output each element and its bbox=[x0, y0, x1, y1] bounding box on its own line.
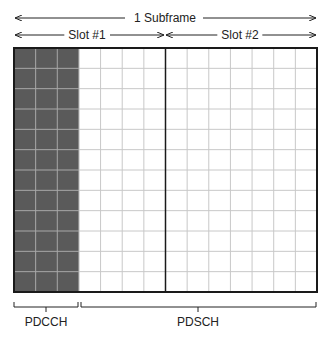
pdcch-bracket bbox=[14, 302, 78, 312]
slot2-label: Slot #2 bbox=[217, 28, 262, 42]
pdsch-label: PDSCH bbox=[173, 315, 223, 329]
pdcch-label: PDCCH bbox=[21, 315, 72, 329]
slot1-label: Slot #1 bbox=[64, 28, 109, 42]
resource-grid-diagram bbox=[0, 0, 330, 341]
subframe-label: 1 Subframe bbox=[130, 11, 200, 25]
pdsch-bracket bbox=[81, 302, 316, 312]
resource-grid bbox=[14, 48, 317, 292]
